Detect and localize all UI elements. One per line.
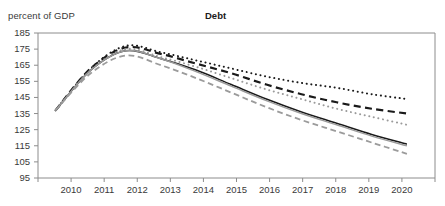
x-tick-label: 2020 (382, 184, 422, 195)
y-tick-label: 145 (4, 91, 30, 102)
series-line-scenario-dotted-dark (56, 45, 407, 110)
y-tick-label: 135 (4, 108, 30, 119)
y-tick-label: 115 (4, 140, 30, 151)
series-line-scenario-solid-gray (56, 50, 407, 145)
y-tick-label: 125 (4, 124, 30, 135)
plot-border (38, 33, 435, 178)
y-tick-label: 105 (4, 156, 30, 167)
y-tick-label: 95 (4, 172, 30, 183)
data-series-group (56, 45, 407, 154)
plot-frame (38, 33, 435, 178)
debt-chart: percent of GDP Debt 18517516515514513512… (0, 0, 445, 206)
y-tick-label: 185 (4, 27, 30, 38)
y-tick-label: 165 (4, 59, 30, 70)
axis-ticks (34, 33, 435, 182)
y-tick-label: 175 (4, 43, 30, 54)
chart-plot-area (0, 0, 445, 206)
y-tick-label: 155 (4, 75, 30, 86)
